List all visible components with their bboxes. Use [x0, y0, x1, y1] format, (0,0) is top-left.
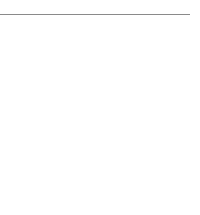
hyperbola-chart: [0, 0, 200, 215]
